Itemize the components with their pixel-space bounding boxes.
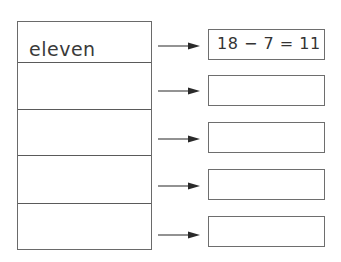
arrow-right-icon: [158, 87, 200, 95]
row-divider: [18, 62, 151, 63]
row-divider: [18, 109, 151, 110]
word-column-box: eleven: [17, 21, 152, 250]
arrow-right-icon: [158, 231, 200, 239]
row-divider: [18, 155, 151, 156]
equation-box-4[interactable]: [208, 169, 325, 200]
equation-text: 18 − 7 = 11: [217, 36, 321, 52]
equation-box-5[interactable]: [208, 216, 325, 247]
equation-box-3[interactable]: [208, 122, 325, 153]
row-divider: [18, 203, 151, 204]
arrow-right-icon: [158, 182, 200, 190]
word-cell-1[interactable]: eleven: [29, 40, 96, 59]
arrow-right-icon: [158, 135, 200, 143]
equation-box-1[interactable]: 18 − 7 = 11: [208, 29, 325, 60]
equation-box-2[interactable]: [208, 75, 325, 106]
arrow-right-icon: [158, 42, 200, 50]
